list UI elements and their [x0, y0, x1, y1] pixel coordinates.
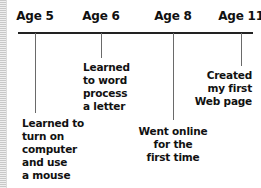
tick-age-6: [101, 33, 102, 58]
timeline-axis: [18, 32, 253, 34]
age-label-5: Age 5: [16, 9, 54, 23]
event-age-5: Learned to turn on computer and use a mo…: [22, 117, 84, 182]
event-age-11: Created my first Web page: [195, 69, 252, 108]
age-label-6: Age 6: [82, 9, 120, 23]
age-label-8: Age 8: [154, 9, 192, 23]
age-label-11: Age 11: [218, 9, 261, 23]
tick-age-8: [173, 33, 174, 120]
event-age-6: Learned to word process a letter: [83, 61, 130, 113]
tick-age-11: [241, 33, 242, 66]
tick-age-5: [35, 33, 36, 113]
page-edge-strip: [0, 0, 7, 188]
event-age-8: Went online for the first time: [139, 125, 208, 164]
